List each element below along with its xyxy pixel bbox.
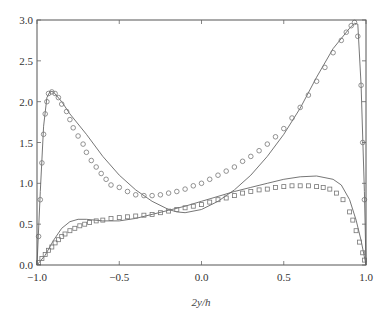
data-point xyxy=(134,214,138,218)
data-point xyxy=(126,215,130,219)
data-point xyxy=(81,142,86,147)
data-point xyxy=(89,158,94,163)
data-point xyxy=(257,188,261,192)
x-tick-label: 1.0 xyxy=(359,271,373,283)
data-point xyxy=(274,185,278,189)
data-point xyxy=(282,126,287,131)
data-point xyxy=(298,184,302,188)
data-point xyxy=(249,154,254,159)
data-point xyxy=(84,150,89,155)
data-point xyxy=(273,135,278,140)
data-point xyxy=(331,50,336,55)
series-solid-line-lower xyxy=(37,176,366,265)
data-point xyxy=(158,193,163,198)
x-tick-label: −1.0 xyxy=(27,271,47,283)
data-point xyxy=(356,34,361,39)
series-solid-line-upper xyxy=(37,23,366,265)
data-point xyxy=(71,126,76,131)
data-point xyxy=(133,193,138,198)
y-tick-label: 1.5 xyxy=(19,137,33,149)
data-point xyxy=(99,171,104,176)
x-axis-title: 2y/h xyxy=(192,296,211,308)
data-point xyxy=(117,216,121,220)
data-point xyxy=(351,218,355,222)
y-tick-label: 2.0 xyxy=(19,96,33,108)
data-point xyxy=(257,148,262,153)
data-point xyxy=(175,189,180,194)
x-axis: −1.0−0.50.00.51.0 xyxy=(27,20,373,283)
data-point xyxy=(94,165,99,170)
data-point xyxy=(241,191,245,195)
data-point xyxy=(315,185,319,189)
data-point xyxy=(199,181,204,186)
y-tick-label: 1.0 xyxy=(19,177,33,189)
data-point xyxy=(191,184,196,189)
data-point xyxy=(73,226,77,230)
data-point xyxy=(334,191,338,195)
data-point xyxy=(232,194,236,198)
data-point xyxy=(125,189,130,194)
chart: −1.0−0.50.00.51.0 0.00.51.01.52.02.53.0 … xyxy=(0,0,386,320)
data-point xyxy=(78,224,82,228)
data-point xyxy=(94,219,98,223)
data-point xyxy=(240,159,245,164)
data-point xyxy=(216,173,221,178)
data-point xyxy=(68,229,72,233)
y-tick-label: 0.5 xyxy=(19,218,33,230)
data-point xyxy=(348,210,352,214)
data-point xyxy=(68,117,73,122)
data-point xyxy=(314,79,319,84)
axes-frame xyxy=(37,20,366,265)
data-point xyxy=(265,142,270,147)
data-point xyxy=(354,229,358,233)
data-point xyxy=(207,177,212,182)
y-tick-label: 0.0 xyxy=(19,259,33,271)
series-circles-upper xyxy=(36,20,366,239)
data-point xyxy=(352,20,357,25)
data-point xyxy=(117,185,122,190)
data-point xyxy=(101,218,105,222)
data-point xyxy=(323,65,328,70)
x-tick-label: 0.5 xyxy=(277,271,291,283)
data-point xyxy=(341,198,345,202)
data-point xyxy=(249,190,253,194)
data-point xyxy=(306,184,310,188)
data-point xyxy=(150,193,155,198)
x-tick-label: 0.0 xyxy=(195,271,209,283)
data-point xyxy=(232,165,237,170)
data-point xyxy=(104,177,109,182)
series-squares-lower xyxy=(37,184,367,265)
data-point xyxy=(321,185,325,189)
data-point xyxy=(208,200,212,204)
data-point xyxy=(290,184,294,188)
data-point xyxy=(109,216,113,220)
data-point xyxy=(328,187,332,191)
data-point xyxy=(88,221,92,225)
data-point xyxy=(76,134,81,139)
y-tick-label: 3.0 xyxy=(19,14,33,26)
data-point xyxy=(191,204,195,208)
data-point xyxy=(183,187,188,192)
data-point xyxy=(83,222,87,226)
plot-area xyxy=(36,20,366,265)
x-tick-label: −0.5 xyxy=(109,271,129,283)
y-tick-label: 2.5 xyxy=(19,55,33,67)
data-point xyxy=(265,187,269,191)
data-point xyxy=(224,169,229,174)
data-point xyxy=(109,183,114,188)
data-point xyxy=(166,191,171,196)
data-point xyxy=(200,203,204,207)
data-point xyxy=(282,185,286,189)
